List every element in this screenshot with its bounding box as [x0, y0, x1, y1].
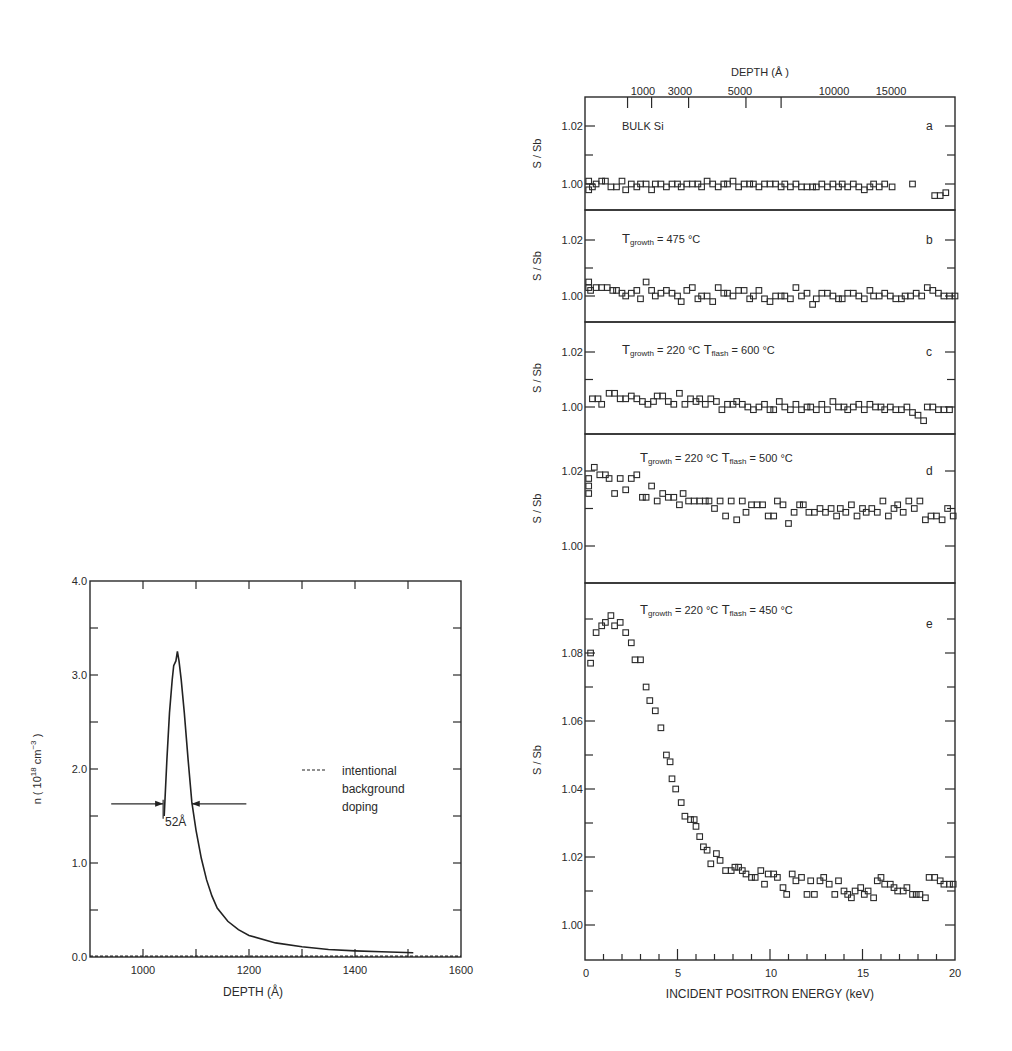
- data-point: [732, 864, 738, 870]
- data-point: [814, 407, 820, 413]
- data-point: [617, 476, 623, 482]
- data-point: [710, 299, 716, 305]
- data-point: [854, 513, 860, 519]
- data-point: [851, 181, 857, 187]
- data-point: [634, 472, 640, 478]
- top-depth-axis-title: DEPTH (Å ): [731, 66, 789, 78]
- data-point: [619, 178, 625, 184]
- data-point: [845, 184, 851, 190]
- data-point: [697, 498, 703, 504]
- data-point: [723, 513, 729, 519]
- data-point: [921, 418, 927, 424]
- data-point: [708, 861, 714, 867]
- data-point: [629, 476, 635, 482]
- data-point: [752, 875, 758, 881]
- data-point: [804, 290, 810, 296]
- data-point: [669, 290, 675, 296]
- panel-c: 1.021.00S / SbcTgrowth = 220 °C Tflash =…: [531, 322, 955, 434]
- data-point: [604, 285, 610, 291]
- legend-line-2: background: [342, 782, 405, 796]
- data-point: [893, 407, 899, 413]
- data-point: [856, 402, 862, 408]
- data-point: [773, 293, 779, 299]
- depth-tick-label: 5000: [728, 85, 752, 97]
- data-point: [586, 491, 592, 497]
- data-point: [714, 851, 720, 857]
- data-point: [617, 620, 623, 626]
- y-tick-label: 1.02: [562, 234, 583, 246]
- data-point: [937, 193, 943, 199]
- data-point: [658, 181, 664, 187]
- data-point: [817, 878, 823, 884]
- data-point: [703, 498, 709, 504]
- data-point: [793, 285, 799, 291]
- data-point: [703, 402, 709, 408]
- data-point: [865, 888, 871, 894]
- data-point: [603, 472, 609, 478]
- data-point: [793, 181, 799, 187]
- data-point: [771, 407, 777, 413]
- data-point: [819, 290, 825, 296]
- data-point: [919, 293, 925, 299]
- x-tick-label: 1400: [343, 964, 367, 976]
- x-tick-label: 20: [949, 967, 961, 979]
- data-point: [678, 299, 684, 305]
- data-point: [928, 513, 934, 519]
- data-point: [614, 288, 620, 294]
- data-point: [867, 402, 873, 408]
- data-point: [634, 288, 640, 294]
- data-point: [586, 476, 592, 482]
- data-point: [900, 510, 906, 516]
- data-point: [936, 290, 942, 296]
- left-chart: 0.0 1.0 2.0 3.0 4.0 1000 1200 1400 1600 …: [29, 575, 473, 999]
- data-point: [588, 660, 594, 666]
- data-point: [941, 407, 947, 413]
- data-point: [660, 393, 666, 399]
- x-tick-label: 1200: [237, 964, 261, 976]
- data-point: [856, 293, 862, 299]
- data-point: [612, 623, 618, 629]
- data-point: [677, 391, 683, 397]
- data-point: [725, 181, 731, 187]
- data-point: [876, 293, 882, 299]
- data-point: [789, 871, 795, 877]
- data-point: [586, 483, 592, 489]
- data-point: [862, 892, 868, 898]
- data-point: [788, 184, 794, 190]
- y-tick-label: 1.00: [562, 290, 583, 302]
- data-point: [706, 498, 712, 504]
- panel-b: 1.021.00S / SbbTgrowth = 475 °C: [531, 210, 958, 322]
- x-tick-label: 1000: [131, 964, 155, 976]
- data-point: [658, 290, 664, 296]
- data-point: [653, 708, 659, 714]
- data-point: [730, 293, 736, 299]
- data-point: [645, 402, 651, 408]
- data-point: [745, 404, 751, 410]
- panel-condition-label: BULK Si: [622, 120, 664, 132]
- data-point: [793, 402, 799, 408]
- panel-frame: [585, 322, 955, 434]
- data-point: [599, 178, 605, 184]
- data-point: [936, 407, 942, 413]
- data-point: [728, 868, 734, 874]
- data-point: [708, 396, 714, 402]
- data-point: [751, 181, 757, 187]
- data-point: [725, 402, 731, 408]
- data-point: [749, 875, 755, 881]
- data-point: [830, 181, 836, 187]
- data-point: [701, 844, 707, 850]
- data-point: [799, 184, 805, 190]
- data-point: [592, 465, 598, 471]
- data-point: [677, 502, 683, 508]
- data-point: [871, 895, 877, 901]
- data-point: [808, 404, 814, 410]
- data-point: [793, 878, 799, 884]
- depth-tick-label: 3000: [668, 85, 692, 97]
- y-axis-label: S / Sb: [531, 745, 543, 775]
- data-point: [728, 498, 734, 504]
- data-point: [869, 506, 875, 512]
- panel-letter: d: [926, 464, 933, 478]
- data-point: [712, 506, 718, 512]
- data-point: [664, 752, 670, 758]
- y-tick-label: 0.0: [72, 951, 87, 963]
